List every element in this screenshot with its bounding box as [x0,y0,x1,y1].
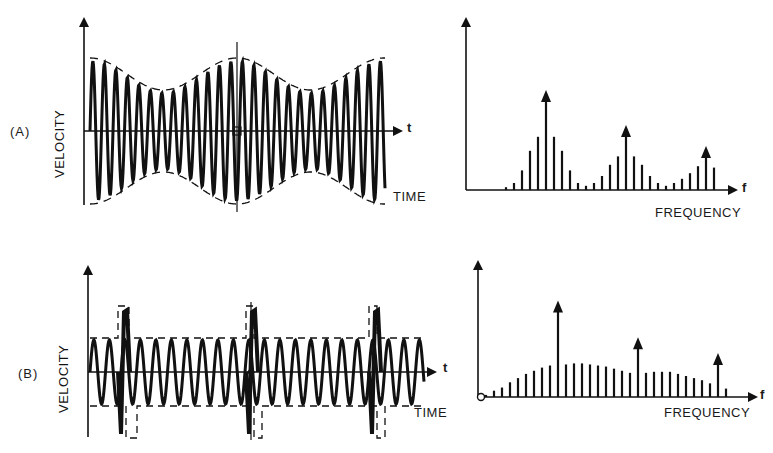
panel-a-spectrum-axes [466,22,733,190]
panel-a-f-label: f [742,180,747,195]
panel-a-spectrum-lines [506,90,714,190]
panel-b-f-label: f [760,387,765,402]
peak-arrow-icon [621,125,631,137]
panel-a-t-label: t [407,120,412,135]
peak-arrow-icon [713,353,723,365]
panel-b-t-label: t [443,360,448,375]
peak-arrow-icon [701,146,711,158]
panel-a-time-label: TIME [393,189,426,204]
panel-a-velocity-label: VELOCITY [52,110,67,178]
panel-b-origin-circle [478,394,485,401]
peak-arrow-icon [541,90,551,102]
impulse-spike [118,310,130,434]
panel-b-frequency-label: FREQUENCY [664,405,750,420]
peak-arrow-icon [633,337,643,349]
panel-b-spectrum-lines [486,301,726,398]
panel-b-time-label: TIME [414,405,447,420]
panel-a-frequency-label: FREQUENCY [655,205,741,220]
peak-arrow-icon [553,301,563,313]
panel-b-label: (B) [18,366,38,381]
impulse-spike [246,310,258,434]
figure-canvas [0,0,773,453]
impulse-spike [369,310,381,434]
panel-a-label: (A) [10,124,30,139]
panel-b-velocity-label: VELOCITY [56,345,71,413]
